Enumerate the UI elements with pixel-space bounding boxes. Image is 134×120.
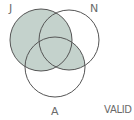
label-n: N <box>90 2 98 15</box>
label-j: J <box>8 2 12 15</box>
verdict-label: VALID <box>104 104 132 115</box>
label-a: A <box>51 105 59 118</box>
venn-diagram: J N A VALID <box>0 0 134 120</box>
